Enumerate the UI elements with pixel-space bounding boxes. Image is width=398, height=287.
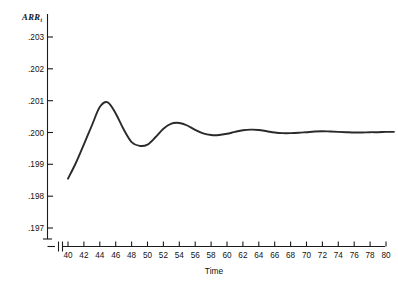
x-tick-label: 64 [254,251,264,260]
y-axis-title: ARRt [21,12,42,23]
x-tick-label: 40 [63,251,73,260]
x-tick-label: 66 [270,251,280,260]
y-axis-ticks [48,37,54,228]
data-series-line [68,102,394,179]
y-tick-label: .198 [28,192,44,201]
y-tick-label: .202 [28,65,44,74]
x-tick-label: 44 [95,251,105,260]
y-axis-tick-labels: .203 .202 .201 .200 .199 .198 .197 [28,33,44,233]
x-tick-label: 70 [302,251,312,260]
y-tick-label: .201 [28,97,44,106]
x-tick-label: 52 [159,251,169,260]
x-axis-tick-labels: 40 42 44 46 48 50 52 54 56 58 60 62 64 6… [63,251,391,260]
x-tick-label: 76 [350,251,360,260]
x-tick-label: 50 [143,251,153,260]
x-tick-label: 42 [79,251,89,260]
x-axis-ticks [68,242,386,247]
x-axis-title: Time [205,266,224,276]
y-tick-label: .203 [28,33,44,42]
x-tick-label: 62 [238,251,248,260]
x-tick-label: 58 [207,251,217,260]
chart-figure: ARRt .203 .202 .201 .200 .199 .198 .197 [0,0,398,287]
x-tick-label: 60 [222,251,232,260]
x-tick-label: 80 [381,251,391,260]
x-tick-label: 48 [127,251,137,260]
x-tick-label: 56 [191,251,201,260]
x-tick-label: 54 [175,251,185,260]
x-tick-label: 72 [318,251,328,260]
x-axis-break-marker [48,242,63,252]
x-tick-label: 46 [111,251,121,260]
y-tick-label: .199 [28,160,44,169]
y-tick-label: .200 [28,129,44,138]
x-tick-label: 78 [366,251,376,260]
x-tick-label: 74 [334,251,344,260]
y-tick-label: .197 [28,224,44,233]
x-tick-label: 68 [286,251,296,260]
arr-time-line-chart: ARRt .203 .202 .201 .200 .199 .198 .197 [0,0,398,287]
